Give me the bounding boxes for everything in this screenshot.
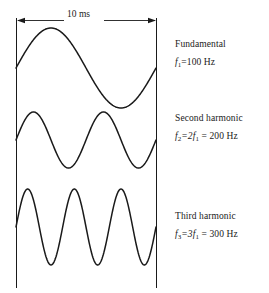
legend-second-harmonic: Second harmonic f2=2f1 = 200 Hz bbox=[175, 112, 269, 143]
waveform-second-harmonic bbox=[16, 112, 156, 168]
legend-third-harmonic-title: Third harmonic bbox=[175, 210, 269, 222]
legend-fundamental-title: Fundamental bbox=[175, 38, 269, 50]
arrow-left-icon bbox=[17, 18, 25, 23]
subscript-1: 1 bbox=[178, 61, 182, 69]
legend-second-harmonic-equation: f2=2f1 = 200 Hz bbox=[175, 130, 269, 143]
equation-third-rest2: = 300 Hz bbox=[199, 229, 238, 239]
equation-third-rest: =3f bbox=[181, 229, 195, 239]
equation-second-rest2: = 200 Hz bbox=[199, 131, 238, 141]
subscript-3b: 1 bbox=[195, 233, 199, 241]
arrow-right-icon bbox=[148, 18, 156, 23]
equation-fundamental-rest: =100 Hz bbox=[181, 57, 215, 67]
subscript-2b: 1 bbox=[195, 135, 199, 143]
legend-fundamental-equation: f1=100 Hz bbox=[175, 56, 269, 69]
waveform-third-harmonic bbox=[16, 189, 156, 265]
legend-third-harmonic-equation: f3=3f1 = 300 Hz bbox=[175, 228, 269, 241]
harmonics-figure: 10 ms Fundamental f1=100 Hz Second harmo… bbox=[0, 0, 269, 293]
waveform-fundamental bbox=[16, 28, 156, 108]
legend-fundamental: Fundamental f1=100 Hz bbox=[175, 38, 269, 69]
equation-second-rest: =2f bbox=[181, 131, 195, 141]
dimension-label-10ms: 10 ms bbox=[67, 9, 90, 20]
legend-third-harmonic: Third harmonic f3=3f1 = 300 Hz bbox=[175, 210, 269, 241]
legend-second-harmonic-title: Second harmonic bbox=[175, 112, 269, 124]
subscript-3: 3 bbox=[178, 233, 182, 241]
subscript-2: 2 bbox=[178, 135, 182, 143]
